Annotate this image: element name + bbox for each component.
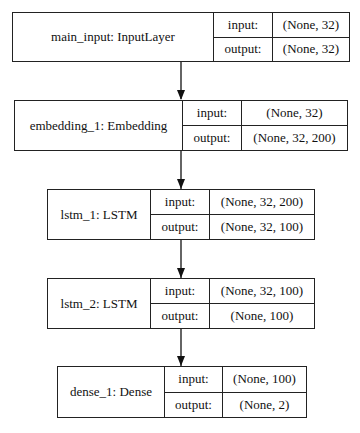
edge-main-input-to-embedding: [177, 61, 185, 100]
output-label: output:: [151, 215, 209, 239]
arrowhead-icon: [177, 90, 185, 100]
node-name: lstm_1: LSTM: [48, 190, 151, 239]
output-label: output:: [183, 126, 241, 150]
output-shape: (None, 32, 200): [242, 126, 347, 150]
output-shape: (None, 32, 100): [210, 215, 314, 239]
output-label: output:: [165, 393, 222, 418]
input-shape: (None, 32): [273, 13, 349, 38]
input-label: input:: [165, 367, 222, 393]
arrowhead-icon: [177, 179, 185, 189]
input-shape: (None, 32, 200): [210, 190, 314, 215]
node-embedding: embedding_1: Embedding input: output: (N…: [14, 100, 348, 151]
input-label: input:: [151, 279, 209, 304]
input-shape: (None, 32, 100): [210, 279, 314, 304]
output-label: output:: [214, 38, 272, 62]
input-shape: (None, 32): [242, 101, 347, 126]
edge-lstm1-to-lstm2: [177, 239, 185, 278]
output-shape: (None, 2): [223, 393, 306, 418]
node-dense-1: dense_1: Dense input: output: (None, 100…: [57, 366, 307, 418]
node-name: lstm_2: LSTM: [48, 279, 151, 328]
input-label: input:: [214, 13, 272, 38]
output-label: output:: [151, 304, 209, 328]
arrowhead-icon: [177, 268, 185, 278]
node-main-input: main_input: InputLayer input: output: (N…: [12, 12, 350, 62]
input-label: input:: [183, 101, 241, 126]
input-label: input:: [151, 190, 209, 215]
output-shape: (None, 32): [273, 38, 349, 62]
edge-embedding-to-lstm1: [177, 150, 185, 189]
node-name: embedding_1: Embedding: [15, 101, 183, 150]
arrowhead-icon: [177, 356, 185, 366]
node-name: dense_1: Dense: [58, 367, 165, 417]
edge-lstm2-to-dense: [177, 328, 185, 366]
node-lstm-2: lstm_2: LSTM input: output: (None, 32, 1…: [47, 278, 315, 329]
node-name: main_input: InputLayer: [13, 13, 214, 61]
node-lstm-1: lstm_1: LSTM input: output: (None, 32, 2…: [47, 189, 315, 240]
input-shape: (None, 100): [223, 367, 306, 393]
output-shape: (None, 100): [210, 304, 314, 328]
